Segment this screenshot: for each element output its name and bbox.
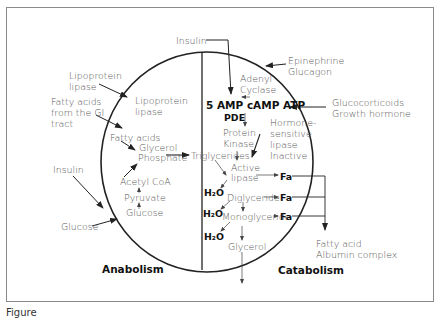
camp-row-label: 5 AMP cAMP ATP [206,100,305,111]
hsl-label-1: Hormone- [270,117,316,128]
glycerol-phosphate-label-2: Phosphate [138,152,187,163]
water-label-2: H₂O [203,208,223,219]
insulin-left-label: Insulin [53,164,84,175]
glucagon-label: Glucagon [288,66,332,77]
fa-label-1: Fa [280,171,292,182]
glucocorticoids-label: Glucocorticoids [332,97,404,108]
lipoprotein-lipase-outer-label-2: lipase [69,81,97,92]
insulin-top-label: Insulin [176,35,207,46]
triglycerides-label: Triglycerides [191,150,250,161]
catabolism-title: Catabolism [278,264,344,276]
pde-label: PDE [224,112,245,123]
anabolism-title: Anabolism [102,263,164,275]
hsl-label-3: lipase [270,139,298,150]
fatty-acids-gi-label-3: tract [51,118,73,129]
protein-kinase-label-2: Kinase [223,138,254,149]
hsl-label-4: Inactive [270,150,307,161]
water-label-3: H₂O [204,231,224,242]
fatty-acid-albumin-label-1: Fatty acid [316,238,362,249]
diglyceride-label: Diglyceride [227,192,280,203]
fa-label-3: Fa [280,211,292,222]
epinephrine-label: Epinephrine [288,55,344,66]
glycerol-label: Glycerol [228,241,266,252]
fatty-acids-gi-label-2: from the GI [51,107,104,118]
adenyl-cyclase-label-2: Cyclase [240,84,276,95]
active-lipase-label-2: lipase [231,172,259,183]
hsl-label-2: sensitive [270,128,312,139]
fatty-acids-gi-label-1: Fatty acids [51,96,102,107]
fa-label-2: Fa [280,192,292,203]
growth-hormone-label: Growth hormone [332,108,411,119]
water-label-1: H₂O [204,187,224,198]
figure-caption: Figure [6,307,37,318]
lipoprotein-lipase-inner-label-1: Lipoprotein [135,95,188,106]
glucose-inner-label: Glucose [126,207,163,218]
adenyl-cyclase-label-1: Adenyl [240,73,272,84]
glucose-outer-label: Glucose [61,221,98,232]
lipoprotein-lipase-outer-label-1: Lipoprotein [69,70,122,81]
protein-kinase-label-1: Protein [223,127,256,138]
lipoprotein-lipase-inner-label-2: lipase [135,106,163,117]
fatty-acid-albumin-label-2: Albumin complex [316,249,397,260]
acetyl-coa-label: Acetyl CoA [120,176,171,187]
pyruvate-label: Pyruvate [124,192,166,203]
